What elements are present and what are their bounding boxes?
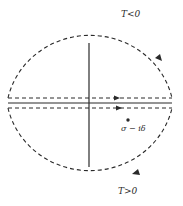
lower-region-label: T>0 — [118, 186, 138, 196]
lower-arc-contour — [8, 108, 172, 171]
lower-arc-arrow-icon — [132, 169, 140, 175]
pole-label: σ − iδ — [121, 124, 146, 133]
contour-diagram: T<0 T>0 σ − iδ — [0, 0, 183, 206]
lower-line-arrow-icon — [116, 106, 122, 111]
upper-arc-arrow-icon — [155, 54, 162, 61]
upper-arc-contour — [8, 35, 172, 98]
pole-point — [126, 118, 129, 121]
upper-line-arrow-icon — [114, 96, 120, 101]
upper-region-label: T<0 — [121, 9, 141, 19]
